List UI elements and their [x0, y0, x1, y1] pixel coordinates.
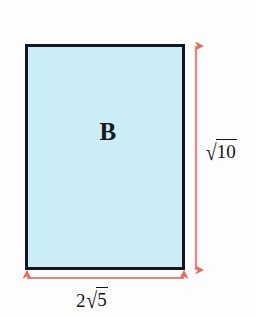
- geometry-diagram-canvas: B √10 2 √5: [0, 0, 256, 318]
- radical-expression-width: √5: [87, 288, 108, 312]
- rectangle-label: B: [28, 47, 188, 273]
- radicand-height: 10: [216, 139, 237, 163]
- radicand-width: 5: [96, 287, 108, 311]
- coefficient-width: 2: [76, 290, 86, 312]
- width-dimension-label: 2 √5: [76, 288, 108, 312]
- height-dimension-label: √10: [206, 140, 237, 164]
- rectangle-shape: B: [25, 44, 185, 270]
- radical-expression-height: √10: [206, 140, 237, 164]
